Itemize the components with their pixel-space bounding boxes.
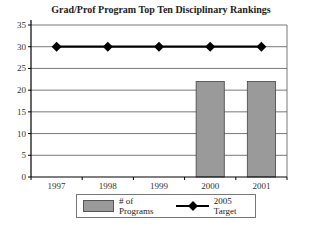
legend-line-diamond-icon: [176, 201, 209, 211]
diamond-marker: [205, 42, 215, 52]
bar: [196, 81, 224, 177]
y-tick-label: 20: [17, 85, 27, 95]
bar: [247, 81, 275, 177]
y-tick-label: 10: [17, 129, 27, 139]
x-tick-label: 2000: [201, 181, 220, 191]
y-tick-label: 35: [17, 20, 27, 30]
x-tick-label: 2001: [252, 181, 270, 191]
legend-bar-swatch: [83, 200, 114, 212]
legend-line-label: 2005 Target: [214, 196, 255, 216]
diamond-marker: [103, 42, 113, 52]
diamond-marker: [256, 42, 266, 52]
chart-legend: # of Programs 2005 Target: [76, 194, 256, 218]
y-tick-label: 0: [22, 172, 27, 182]
y-tick-label: 5: [22, 150, 27, 160]
x-tick-label: 1998: [99, 181, 118, 191]
legend-bar-label: # of Programs: [119, 196, 168, 216]
y-tick-label: 30: [17, 42, 27, 52]
diamond-marker: [154, 42, 164, 52]
y-tick-label: 15: [17, 107, 27, 117]
diamond-marker: [52, 42, 62, 52]
x-tick-label: 1999: [150, 181, 169, 191]
y-tick-label: 25: [17, 63, 27, 73]
x-tick-label: 1997: [48, 181, 67, 191]
